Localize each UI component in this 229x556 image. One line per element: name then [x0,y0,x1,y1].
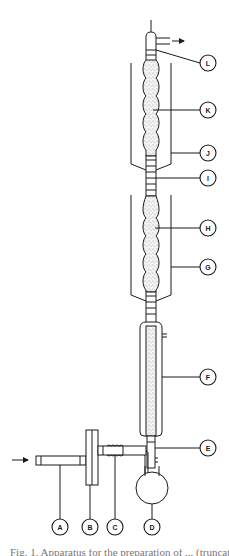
svg-text:G: G [205,264,211,271]
label-L: L [200,55,216,71]
svg-text:C: C [112,524,117,531]
inlet-assembly [12,430,146,485]
label-H: H [200,220,216,236]
label-E: E [200,440,216,456]
label-B: B [82,519,98,535]
round-bottom-flask [136,466,168,504]
svg-text:L: L [206,60,211,67]
svg-text:E: E [206,445,211,452]
apparatus-diagram: L K J I H G F E A B C D [0,0,229,556]
svg-text:B: B [87,524,92,531]
label-I: I [200,170,216,186]
svg-text:D: D [149,524,154,531]
label-G: G [200,259,216,275]
svg-text:I: I [207,175,209,182]
lower-bulb-column [143,196,159,324]
svg-text:A: A [57,524,62,531]
label-D: D [144,519,160,535]
svg-text:K: K [205,107,210,114]
label-K: K [200,102,216,118]
packed-tube [140,322,167,436]
label-C: C [107,519,123,535]
figure-caption: Fig. 1. Apparatus for the preparation of… [0,549,229,556]
svg-text:J: J [206,150,210,157]
label-J: J [200,145,216,161]
label-A: A [52,519,68,535]
svg-text:H: H [205,225,210,232]
svg-text:F: F [206,374,211,381]
label-F: F [200,369,216,385]
outlet-head [146,20,184,60]
ring-section [146,156,156,196]
upper-bulb-column [143,60,159,156]
